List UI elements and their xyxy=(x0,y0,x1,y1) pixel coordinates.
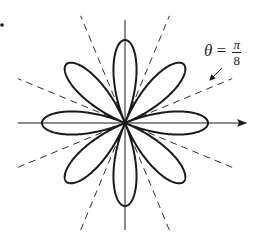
theta-symbol: θ xyxy=(204,41,212,60)
rose-curve-diagram xyxy=(0,0,264,239)
equals-sign: = xyxy=(217,41,227,60)
fraction-denominator: 8 xyxy=(232,53,241,67)
fraction-numerator: π xyxy=(232,38,241,53)
annotation-arrow xyxy=(210,68,222,80)
origin-point xyxy=(123,121,127,125)
corner-dot xyxy=(0,23,4,27)
fraction: π 8 xyxy=(232,38,241,67)
theta-annotation-label: θ = π 8 xyxy=(204,38,241,67)
